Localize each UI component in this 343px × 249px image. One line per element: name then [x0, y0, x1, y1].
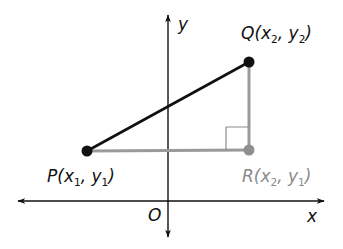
point-P-label-prefix: P(x [47, 166, 74, 186]
point-R-label-mid: , y [277, 166, 298, 186]
origin-label: O [148, 207, 161, 224]
point-Q [244, 57, 255, 68]
point-P [82, 146, 93, 157]
point-R-label: R(x2, y1) [242, 168, 311, 187]
point-R-label-prefix: R(x [242, 166, 271, 186]
point-Q-label-mid: , y [278, 23, 299, 43]
point-P-label-mid: , y [81, 166, 102, 186]
point-R [244, 145, 255, 156]
point-Q-x-subscript: 2 [271, 33, 278, 45]
point-Q-label-end: ) [305, 23, 312, 43]
segment-PR [87, 150, 249, 151]
x-axis-label: x [307, 208, 317, 225]
point-P-label-end: ) [108, 166, 115, 186]
point-P-label: P(x1, y1) [47, 168, 115, 187]
point-Q-label-prefix: Q(x [241, 23, 271, 43]
coordinate-plane-diagram: y x O Q(x2, y2) P(x1, y1) R(x2, y1) [0, 0, 343, 249]
y-axis-label: y [178, 16, 188, 33]
point-R-y-subscript: 1 [298, 176, 305, 188]
point-Q-label: Q(x2, y2) [241, 25, 312, 44]
point-R-label-end: ) [305, 166, 312, 186]
point-P-x-subscript: 1 [74, 176, 81, 188]
